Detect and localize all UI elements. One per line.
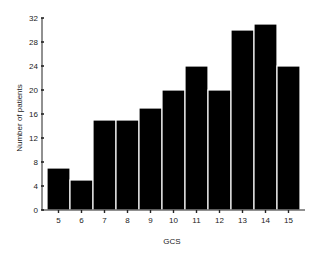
y-tick-label: 28 — [29, 38, 38, 47]
bar-gcs-14 — [254, 24, 277, 210]
bar-gcs-12 — [208, 90, 231, 210]
x-tick-label: 9 — [148, 216, 153, 225]
y-tick-label: 12 — [29, 134, 38, 143]
y-axis-title: Number of patients — [15, 84, 24, 152]
y-tick-label: 24 — [29, 62, 38, 71]
x-tick-label: 13 — [238, 216, 247, 225]
y-axis: 048121620242832 — [29, 14, 44, 215]
y-tick-label: 8 — [34, 158, 39, 167]
x-tick-label: 8 — [125, 216, 130, 225]
x-tick-label: 14 — [261, 216, 270, 225]
bar-gcs-6 — [70, 180, 93, 210]
y-tick-label: 32 — [29, 14, 38, 23]
bar-gcs-10 — [162, 90, 185, 210]
bar-gcs-15 — [277, 66, 300, 210]
x-tick-label: 15 — [284, 216, 293, 225]
x-tick-label: 5 — [56, 216, 61, 225]
bar-chart: 048121620242832 56789101112131415 GCS Nu… — [0, 0, 320, 256]
x-axis: 56789101112131415 — [42, 210, 305, 225]
x-tick-label: 12 — [215, 216, 224, 225]
bar-gcs-7 — [93, 120, 116, 210]
bar-gcs-13 — [231, 30, 254, 210]
bar-gcs-5 — [47, 168, 70, 210]
bars-group — [47, 24, 300, 210]
x-axis-title: GCS — [163, 237, 180, 246]
y-tick-label: 4 — [34, 182, 39, 191]
y-tick-label: 16 — [29, 110, 38, 119]
y-tick-label: 0 — [34, 206, 39, 215]
bar-gcs-9 — [139, 108, 162, 210]
x-tick-label: 7 — [102, 216, 107, 225]
y-tick-label: 20 — [29, 86, 38, 95]
x-tick-label: 10 — [169, 216, 178, 225]
x-tick-label: 6 — [79, 216, 84, 225]
bar-gcs-11 — [185, 66, 208, 210]
x-tick-label: 11 — [192, 216, 201, 225]
bar-gcs-8 — [116, 120, 139, 210]
